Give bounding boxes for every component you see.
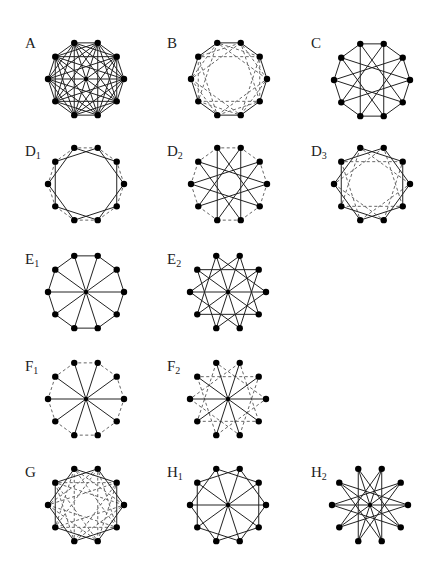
vertex-node-icon: [121, 76, 127, 82]
graph-label-c: C: [311, 36, 321, 51]
solid-edge: [117, 270, 124, 292]
dashed-edge: [98, 421, 117, 435]
vertex-node-icon: [194, 266, 200, 272]
solid-edge: [117, 57, 124, 79]
solid-edge: [191, 79, 198, 101]
solid-edge: [98, 148, 124, 184]
dashed-edge: [98, 148, 117, 162]
graph-label-d1: D1: [25, 144, 41, 161]
vertex-node-icon: [45, 76, 51, 82]
solid-edge: [241, 101, 260, 115]
vertex-node-icon: [263, 396, 269, 402]
vertex-node-icon: [114, 311, 120, 317]
solid-edge: [98, 101, 117, 115]
vertex-node-icon: [114, 203, 120, 209]
vertex-node-icon: [237, 466, 243, 472]
vertex-node-icon: [52, 418, 58, 424]
vertex-node-icon: [194, 311, 200, 317]
solid-edge: [260, 79, 267, 101]
dashed-edge: [48, 162, 55, 184]
vertex-node-icon: [256, 311, 262, 317]
vertex-node-icon: [238, 145, 244, 151]
vertex-node-icon: [237, 360, 243, 366]
center-node-icon: [84, 290, 88, 294]
graph-label-subscript: 1: [33, 365, 38, 376]
graph-label-subscript: 3: [322, 150, 327, 161]
graph-label-letter: D: [311, 143, 322, 159]
vertex-node-icon: [336, 524, 342, 530]
solid-edge: [191, 57, 198, 79]
vertex-node-icon: [357, 41, 363, 47]
solid-edge: [334, 58, 341, 80]
vertex-node-icon: [52, 311, 58, 317]
vertex-node-icon: [357, 217, 363, 223]
vertex-node-icon: [407, 181, 413, 187]
dashed-edge: [197, 363, 216, 421]
vertex-node-icon: [187, 396, 193, 402]
vertex-node-icon: [256, 524, 262, 530]
vertex-node-icon: [405, 502, 411, 508]
vertex-node-icon: [195, 203, 201, 209]
dashed-edge: [191, 79, 217, 115]
graph-f1: [45, 360, 127, 439]
vertex-node-icon: [71, 253, 77, 259]
dashed-edge: [241, 43, 267, 79]
graph-c: [331, 41, 413, 120]
vertex-node-icon: [381, 113, 387, 119]
vertex-node-icon: [114, 98, 120, 104]
graph-label-letter: E: [167, 251, 176, 267]
center-node-icon: [226, 290, 230, 294]
vertex-node-icon: [45, 289, 51, 295]
dashed-edge: [198, 206, 217, 220]
vertex-node-icon: [188, 76, 194, 82]
dashed-edge: [48, 505, 117, 527]
vertex-node-icon: [264, 76, 270, 82]
graph-label-letter: B: [167, 35, 177, 51]
vertex-node-icon: [257, 203, 263, 209]
graph-label-letter: H: [311, 464, 322, 480]
vertex-node-icon: [338, 158, 344, 164]
vertex-node-icon: [52, 373, 58, 379]
dashed-edge: [48, 483, 117, 505]
vertex-node-icon: [95, 360, 101, 366]
dashed-edge: [48, 377, 55, 399]
graph-f2: [187, 360, 269, 439]
vertex-node-icon: [195, 98, 201, 104]
graph-label-e2: E2: [167, 252, 181, 269]
solid-edge: [48, 292, 55, 314]
vertex-node-icon: [95, 40, 101, 46]
graph-label-f1: F1: [25, 359, 38, 376]
vertex-node-icon: [121, 289, 127, 295]
vertex-node-icon: [256, 373, 262, 379]
vertex-node-icon: [95, 432, 101, 438]
solid-edge: [241, 43, 260, 57]
solid-edge: [341, 102, 360, 116]
vertex-node-icon: [381, 217, 387, 223]
vertex-node-icon: [114, 53, 120, 59]
graph-label-subscript: 1: [36, 150, 41, 161]
vertex-node-icon: [52, 53, 58, 59]
graph-label-b: B: [167, 36, 177, 51]
vertex-node-icon: [237, 432, 243, 438]
vertex-node-icon: [338, 99, 344, 105]
vertex-node-icon: [257, 158, 263, 164]
vertex-node-icon: [256, 479, 262, 485]
vertex-node-icon: [71, 40, 77, 46]
graph-label-h1: H1: [167, 465, 183, 482]
vertex-node-icon: [237, 253, 243, 259]
vertex-node-icon: [338, 54, 344, 60]
vertex-node-icon: [237, 325, 243, 331]
solid-edge: [117, 292, 124, 314]
vertex-node-icon: [214, 40, 220, 46]
solid-edge: [55, 43, 74, 57]
solid-edge: [334, 184, 360, 220]
vertex-node-icon: [400, 99, 406, 105]
dashed-edge: [117, 184, 124, 206]
dashed-edge: [98, 206, 117, 220]
vertex-node-icon: [355, 466, 361, 472]
solid-edge: [403, 58, 410, 80]
solid-edge: [403, 80, 410, 102]
graph-label-a: A: [25, 36, 36, 51]
vertex-node-icon: [213, 253, 219, 259]
vertex-node-icon: [331, 181, 337, 187]
